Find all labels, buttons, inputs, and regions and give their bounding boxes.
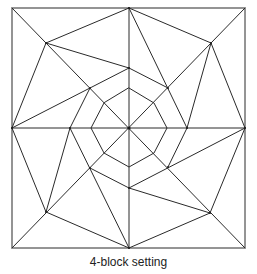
pattern-line: [12, 43, 46, 128]
vertex-dot: [128, 187, 130, 189]
vertex-dot: [244, 127, 246, 129]
vertex-dot: [209, 212, 211, 214]
quilt-block-diagram: [0, 0, 257, 256]
vertex-dot: [127, 126, 130, 129]
pattern-line: [129, 188, 210, 213]
vertex-dot: [89, 167, 91, 169]
vertex-dot: [210, 42, 212, 44]
figure-caption: 4-block setting: [0, 255, 257, 269]
pattern-line: [210, 128, 245, 213]
vertex-dot: [45, 42, 47, 44]
vertex-dot: [128, 67, 130, 69]
vertex-dot: [89, 87, 91, 89]
pattern-line: [46, 128, 70, 212]
pattern-line: [70, 128, 129, 248]
pattern-line: [129, 68, 168, 88]
vertex-dot: [69, 127, 71, 129]
pattern-line: [46, 8, 129, 43]
pattern-line: [168, 128, 187, 167]
pattern-line: [211, 43, 245, 128]
vertex-dot: [186, 127, 188, 129]
pattern-line: [129, 8, 211, 43]
pattern-line: [12, 128, 46, 212]
quilt-pattern-figure: [0, 0, 257, 256]
vertex-dot: [45, 211, 47, 213]
pattern-line: [70, 88, 90, 128]
vertex-dot: [167, 87, 169, 89]
pattern-line: [90, 168, 129, 188]
pattern-line: [46, 212, 129, 248]
pattern-line: [129, 213, 210, 248]
pattern-line: [129, 128, 245, 188]
vertex-dot: [11, 127, 13, 129]
vertex-dot: [167, 166, 169, 168]
vertex-dot: [128, 247, 130, 249]
vertex-dot: [128, 7, 130, 9]
